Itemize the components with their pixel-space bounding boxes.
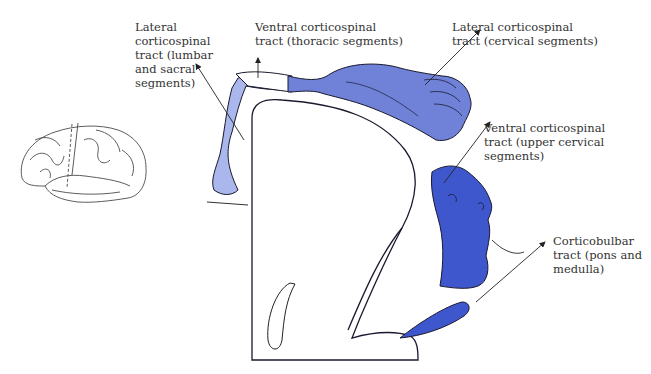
tongue-shape	[400, 302, 469, 338]
label-ventral-cs-thoracic: Ventral corticospinal tract (thoracic se…	[255, 20, 403, 48]
label-ventral-cs-upper-cervical: Ventral corticospinal tract (upper cervi…	[484, 121, 605, 163]
face-shape	[431, 166, 491, 288]
label-lateral-cs-lumbar: Lateral corticospinal tract (lumbar and …	[135, 20, 213, 90]
homunculus-diagram	[0, 0, 651, 374]
brain-icon	[21, 123, 146, 202]
label-lateral-cs-cervical: Lateral corticospinal tract (cervical se…	[452, 20, 598, 48]
label-corticobulbar: Corticobulbar tract (pons and medulla)	[553, 234, 642, 276]
